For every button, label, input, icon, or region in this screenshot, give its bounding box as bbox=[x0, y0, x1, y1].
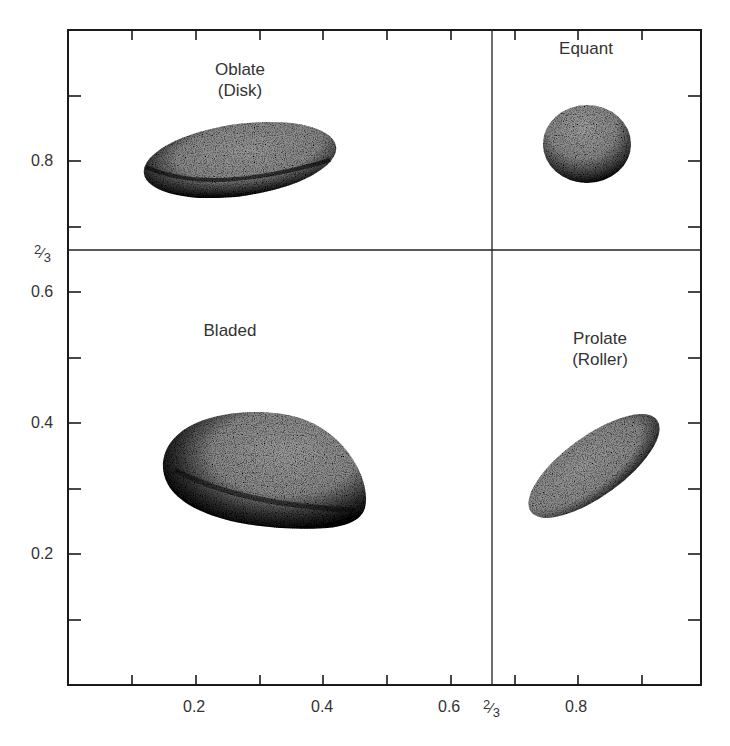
y-tick-label-two-thirds: 2⁄3 bbox=[34, 241, 51, 267]
bladed-label: Bladed bbox=[204, 320, 257, 341]
equant-label: Equant bbox=[559, 38, 613, 59]
x-tick-label-0.8: 0.8 bbox=[565, 698, 587, 716]
oblate-shape bbox=[139, 111, 341, 209]
y-tick-label-0.4: 0.4 bbox=[31, 414, 53, 432]
prolate-title: Prolate bbox=[572, 328, 628, 349]
y-tick-label-0.2: 0.2 bbox=[31, 545, 53, 563]
equant-shape bbox=[543, 105, 631, 183]
frac-denominator: 3 bbox=[44, 250, 51, 265]
x-tick-label-0.4: 0.4 bbox=[311, 698, 333, 716]
prolate-label: Prolate (Roller) bbox=[572, 328, 628, 370]
x-tick-label-0.2: 0.2 bbox=[183, 698, 205, 716]
y-tick-label-0.6: 0.6 bbox=[31, 283, 53, 301]
zingg-diagram bbox=[0, 0, 730, 746]
bladed-title: Bladed bbox=[204, 320, 257, 341]
y-tick-label-0.8: 0.8 bbox=[31, 152, 53, 170]
prolate-shape bbox=[513, 396, 674, 536]
frac-denominator: 3 bbox=[493, 705, 500, 720]
x-tick-label-two-thirds: 2⁄3 bbox=[483, 696, 500, 722]
x-tick-label-0.6: 0.6 bbox=[438, 698, 460, 716]
oblate-label: Oblate (Disk) bbox=[215, 59, 265, 101]
prolate-subtitle: (Roller) bbox=[572, 349, 628, 370]
equant-title: Equant bbox=[559, 38, 613, 59]
oblate-subtitle: (Disk) bbox=[215, 80, 265, 101]
oblate-title: Oblate bbox=[215, 59, 265, 80]
